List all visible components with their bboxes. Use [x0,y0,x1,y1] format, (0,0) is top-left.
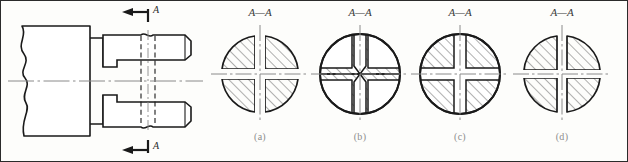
section-letter-bottom: A [153,140,159,151]
shaft-head-lower [103,95,191,128]
collar-step-lower [90,95,103,124]
quarter-segment-tr [265,36,298,69]
view-caption-d: (d) [556,131,569,142]
view-d-half-bottom-left [524,78,557,112]
section-arrow-head-bottom [122,146,133,154]
section-title-c: A—A [448,6,471,18]
view-d-half-top-left [524,36,557,70]
figure-root: A A A—A A—A A—A A—A (a) (b) (c) (d) [0,0,628,162]
section-title-b: A—A [348,6,371,18]
section-arrow-head-top [122,8,133,16]
section-view-c [411,25,509,123]
quarter-segment-br [265,79,298,112]
shaft-head-upper [103,34,191,67]
collar-step-upper [90,38,103,67]
view-d-half-bottom-right [567,78,600,112]
view-caption-c: (c) [454,131,466,142]
quarter-segment-tl [222,36,255,69]
view-d-half-top-right [567,36,600,70]
section-mark-top [122,8,148,22]
section-letter-top: A [153,4,159,15]
view-caption-b: (b) [354,131,367,142]
elevation-view [8,8,203,154]
section-title-d: A—A [550,6,573,18]
section-view-b [311,25,409,123]
section-view-d [513,25,611,123]
view-caption-a: (a) [254,131,266,142]
technical-drawing-canvas [0,0,628,162]
section-view-a [211,25,309,123]
quarter-segment-bl [222,79,255,112]
section-mark-bottom [122,140,148,154]
section-title-a: A—A [248,6,271,18]
